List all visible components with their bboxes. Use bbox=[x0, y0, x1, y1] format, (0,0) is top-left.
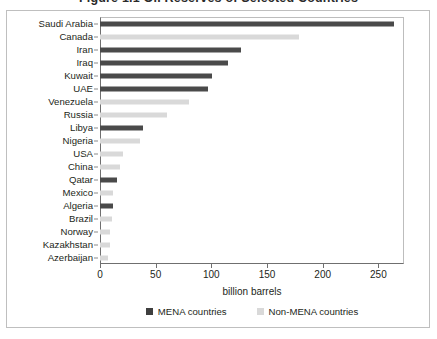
y-axis-label: China bbox=[6, 160, 98, 173]
bar-row bbox=[100, 30, 404, 43]
bar-row bbox=[100, 147, 404, 160]
bar-china bbox=[100, 164, 120, 169]
y-axis-tick-mark bbox=[94, 166, 98, 167]
bar-azerbaijan bbox=[100, 255, 108, 260]
y-axis-label: Qatar bbox=[6, 173, 98, 186]
bar-uae bbox=[100, 86, 208, 91]
bar-row bbox=[100, 108, 404, 121]
y-axis-label: Mexico bbox=[6, 186, 98, 199]
y-axis-label-text: Brazil bbox=[69, 213, 93, 224]
y-axis-tick-mark bbox=[94, 218, 98, 219]
bar-row bbox=[100, 251, 404, 264]
y-axis-label: USA bbox=[6, 147, 98, 160]
x-axis-tick-mark bbox=[100, 264, 101, 268]
y-axis-label-text: Algeria bbox=[63, 200, 93, 211]
figure-title-clipped: Figure 1.1 Oil Reserves of Selected Coun… bbox=[0, 0, 437, 9]
y-axis-label-text: China bbox=[68, 161, 93, 172]
x-axis-tick-label: 150 bbox=[259, 269, 276, 280]
bar-kuwait bbox=[100, 73, 212, 78]
y-axis-label: Algeria bbox=[6, 199, 98, 212]
bar-row bbox=[100, 134, 404, 147]
y-axis-label-text: Norway bbox=[60, 226, 93, 237]
bar-nigeria bbox=[100, 138, 140, 143]
y-axis-tick-mark bbox=[94, 179, 98, 180]
bar-row bbox=[100, 82, 404, 95]
y-axis-label: Venezuela bbox=[6, 95, 98, 108]
y-axis-label: Norway bbox=[6, 225, 98, 238]
bar-row bbox=[100, 160, 404, 173]
bar-venezuela bbox=[100, 99, 189, 104]
bar-iran bbox=[100, 47, 241, 52]
bar-russia bbox=[100, 112, 167, 117]
y-axis-label-text: Russia bbox=[64, 109, 93, 120]
y-axis-label-text: UAE bbox=[73, 83, 93, 94]
x-axis-tick-label: 100 bbox=[203, 269, 220, 280]
bar-row bbox=[100, 212, 404, 225]
y-axis-tick-mark bbox=[94, 153, 98, 154]
x-axis-tick-label: 50 bbox=[150, 269, 161, 280]
bar-kazakhstan bbox=[100, 242, 110, 247]
y-axis-label: Brazil bbox=[6, 212, 98, 225]
y-axis-label: Libya bbox=[6, 121, 98, 134]
bar-algeria bbox=[100, 203, 113, 208]
y-axis-tick-mark bbox=[94, 36, 98, 37]
bar-brazil bbox=[100, 216, 112, 221]
bar-row bbox=[100, 121, 404, 134]
bar-row bbox=[100, 56, 404, 69]
bar-usa bbox=[100, 151, 123, 156]
legend-swatch-mena bbox=[146, 308, 153, 315]
bar-row bbox=[100, 238, 404, 251]
y-axis-label-text: Iraq bbox=[76, 57, 93, 68]
x-axis-tick-mark bbox=[267, 264, 268, 268]
y-axis-label-text: Canada bbox=[59, 31, 93, 42]
x-axis-tick-label: 200 bbox=[314, 269, 331, 280]
y-axis-tick-mark bbox=[94, 62, 98, 63]
bar-canada bbox=[100, 34, 299, 39]
y-axis-labels: Saudi ArabiaCanadaIranIraqKuwaitUAEVenez… bbox=[6, 17, 98, 264]
y-axis-tick-mark bbox=[94, 231, 98, 232]
y-axis-label: Nigeria bbox=[6, 134, 98, 147]
y-axis-label: Kuwait bbox=[6, 69, 98, 82]
y-axis-label: Azerbaijan bbox=[6, 251, 98, 264]
bar-row bbox=[100, 186, 404, 199]
y-axis-label: Iran bbox=[6, 43, 98, 56]
x-axis-tick-label: 0 bbox=[97, 269, 103, 280]
x-axis-tick-mark bbox=[211, 264, 212, 268]
y-axis-label: UAE bbox=[6, 82, 98, 95]
legend-label: Non-MENA countries bbox=[269, 306, 359, 317]
y-axis-label-text: Kuwait bbox=[64, 70, 93, 81]
bar-row bbox=[100, 69, 404, 82]
x-axis-title: billion barrels bbox=[100, 286, 404, 297]
bar-row bbox=[100, 225, 404, 238]
y-axis-tick-mark bbox=[94, 114, 98, 115]
bar-row bbox=[100, 17, 404, 30]
y-axis-label: Canada bbox=[6, 30, 98, 43]
bar-row bbox=[100, 43, 404, 56]
y-axis-label-text: Venezuela bbox=[48, 96, 93, 107]
y-axis-label: Russia bbox=[6, 108, 98, 121]
y-axis-tick-mark bbox=[94, 140, 98, 141]
y-axis-tick-mark bbox=[94, 244, 98, 245]
y-axis-tick-mark bbox=[94, 192, 98, 193]
y-axis-tick-mark bbox=[94, 49, 98, 50]
y-axis-label: Kazakhstan bbox=[6, 238, 98, 251]
x-axis-tick-mark bbox=[156, 264, 157, 268]
x-axis-tick-labels: 050100150200250 bbox=[0, 269, 437, 283]
bar-saudi-arabia bbox=[100, 21, 394, 26]
y-axis-label-text: Kazakhstan bbox=[43, 239, 93, 250]
y-axis-label: Saudi Arabia bbox=[6, 17, 98, 30]
bar-row bbox=[100, 173, 404, 186]
bar-row bbox=[100, 199, 404, 212]
bar-norway bbox=[100, 229, 110, 234]
figure-title-text: Figure 1.1 Oil Reserves of Selected Coun… bbox=[0, 0, 437, 5]
y-axis-tick-mark bbox=[94, 88, 98, 89]
bar-libya bbox=[100, 125, 143, 130]
y-axis-tick-mark bbox=[94, 205, 98, 206]
y-axis-label-text: USA bbox=[73, 148, 93, 159]
y-axis-label-text: Mexico bbox=[63, 187, 93, 198]
y-axis-label: Iraq bbox=[6, 56, 98, 69]
y-axis-label-text: Azerbaijan bbox=[48, 252, 93, 263]
x-axis-tick-label: 250 bbox=[370, 269, 387, 280]
legend-item-non: Non-MENA countries bbox=[257, 306, 359, 317]
x-axis-tick-mark bbox=[323, 264, 324, 268]
